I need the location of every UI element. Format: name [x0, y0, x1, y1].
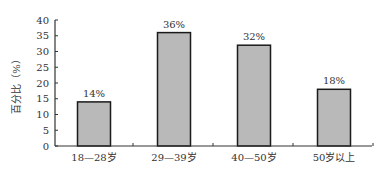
bar-value-label: 36% — [163, 19, 185, 30]
y-tick-label: 25 — [36, 62, 49, 73]
bar — [78, 102, 111, 146]
bar — [158, 33, 191, 146]
bar-value-label: 32% — [243, 31, 265, 42]
x-category-label: 29—39岁 — [151, 151, 196, 163]
y-tick-label: 30 — [36, 46, 49, 57]
y-tick-label: 20 — [36, 78, 49, 89]
y-tick-label: 15 — [36, 93, 49, 104]
y-axis-title: 百分比（%） — [11, 54, 22, 114]
bar — [318, 89, 351, 146]
y-tick-label: 35 — [36, 30, 49, 41]
x-category-label: 40—50岁 — [231, 151, 276, 163]
bar-chart: 0510152025303540 14%36%32%18% 18—28岁29—3… — [0, 0, 390, 173]
bar — [238, 45, 271, 146]
x-category-label: 18—28岁 — [71, 151, 116, 163]
bars: 14%36%32%18% — [78, 19, 351, 146]
y-tick-label: 40 — [36, 15, 49, 26]
x-category-label: 50岁以上 — [313, 151, 356, 163]
bar-value-label: 14% — [83, 88, 105, 99]
y-tick-label: 5 — [43, 125, 49, 136]
bar-value-label: 18% — [323, 75, 345, 86]
y-tick-label: 10 — [36, 109, 49, 120]
y-tick-label: 0 — [43, 141, 49, 152]
